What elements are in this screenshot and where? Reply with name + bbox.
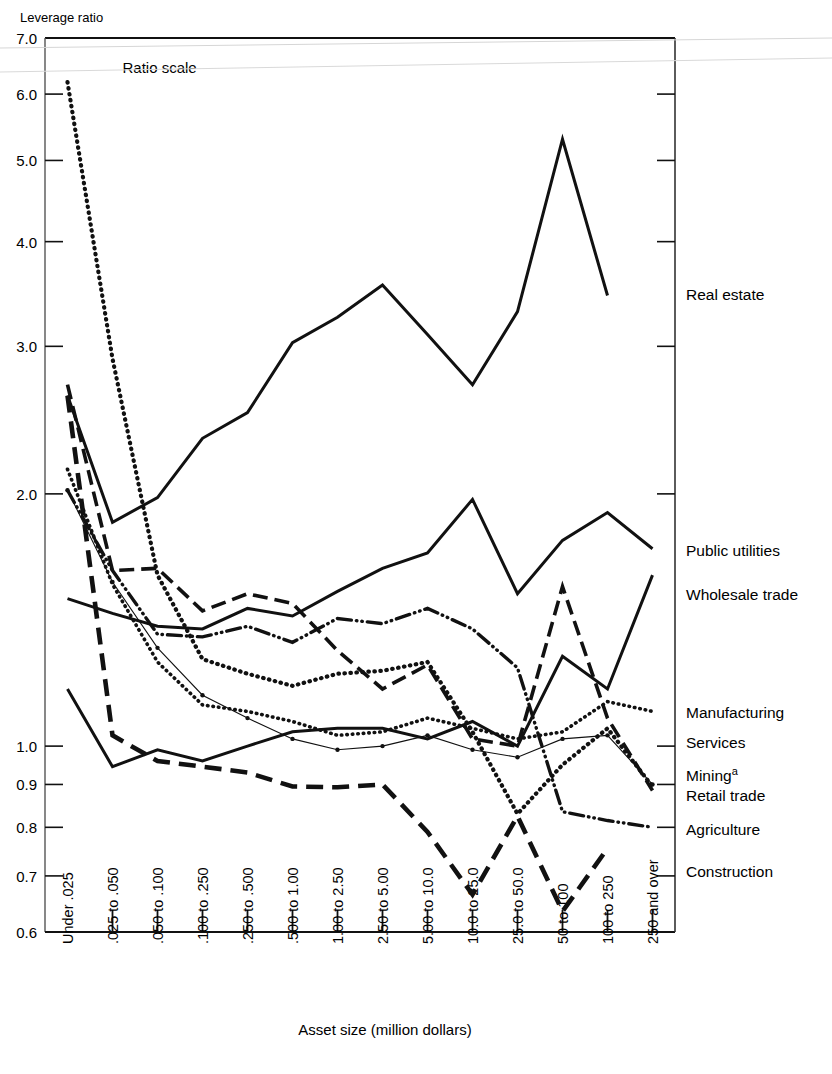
- series-label-agriculture: Agriculture: [686, 821, 760, 838]
- series-marker: [560, 737, 564, 741]
- series-line-manufacturing: [68, 469, 653, 739]
- series-marker: [380, 744, 384, 748]
- series-line-real-estate: [68, 139, 608, 522]
- x-tick-label: .100 to .250: [195, 867, 211, 944]
- series-marker: [155, 646, 159, 650]
- mining-footnote-marker: a: [732, 765, 739, 777]
- series-group: [65, 82, 654, 911]
- series-marker: [110, 580, 114, 584]
- series-line-services: [68, 490, 653, 784]
- y-tick-label: 7.0: [16, 30, 37, 47]
- x-tick-label: .500 to 1.00: [285, 867, 301, 944]
- series-marker: [335, 748, 339, 752]
- series-marker: [290, 737, 294, 741]
- series-label-retail-trade: Retail trade: [686, 787, 765, 804]
- series-label-public-utilities: Public utilities: [686, 542, 780, 559]
- x-axis-title: Asset size (million dollars): [298, 1021, 471, 1038]
- series-label-real-estate: Real estate: [686, 286, 764, 303]
- series-marker: [515, 755, 519, 759]
- x-tick-label: 5.00 to 10.0: [420, 867, 436, 944]
- x-tick-label: 1.00 to 2.50: [330, 867, 346, 944]
- ratio-scale-annotation: Ratio scale: [123, 59, 197, 76]
- y-tick-label: 4.0: [16, 234, 37, 251]
- series-label-manufacturing: Manufacturing: [686, 704, 784, 721]
- series-marker: [200, 693, 204, 697]
- x-tick-label: 50 to 100: [555, 884, 571, 944]
- x-tick-label: .050 to .100: [150, 867, 166, 944]
- y-tick-label: 5.0: [16, 152, 37, 169]
- x-tick-label: .025 to .050: [105, 867, 121, 944]
- scan-artifact-line: [0, 38, 832, 48]
- series-label-wholesale-trade: Wholesale trade: [686, 586, 798, 603]
- x-tick-label: 25.0 to 50.0: [510, 867, 526, 944]
- y-tick-label: 0.8: [16, 819, 37, 836]
- x-tick-label: 100 to 250: [600, 875, 616, 944]
- series-marker: [605, 733, 609, 737]
- y-tick-label: 0.9: [16, 776, 37, 793]
- series-line-mining: [68, 82, 653, 814]
- series-line-construction: [68, 396, 608, 912]
- y-tick-label: 0.7: [16, 868, 37, 885]
- y-axis-title: Leverage ratio: [20, 10, 103, 25]
- y-tick-label: 6.0: [16, 86, 37, 103]
- series-marker: [470, 748, 474, 752]
- y-tick-label: 0.6: [16, 924, 37, 941]
- series-label-construction: Construction: [686, 863, 773, 880]
- x-tick-label: 10.0 to 25.0: [465, 867, 481, 944]
- series-label-services: Services: [686, 734, 746, 751]
- x-tick-label: .250 to .500: [240, 867, 256, 944]
- series-label-mining: Mininga: [686, 765, 739, 784]
- leverage-ratio-line-chart: 7.06.05.04.03.02.01.00.90.80.70.6Under .…: [0, 0, 832, 1074]
- x-tick-label: 2.50 to 5.00: [375, 867, 391, 944]
- y-tick-label: 1.0: [16, 738, 37, 755]
- y-tick-label: 2.0: [16, 486, 37, 503]
- series-marker: [425, 733, 429, 737]
- x-tick-label: Under .025: [60, 872, 76, 944]
- x-tick-label: 250 and over: [645, 859, 661, 944]
- series-marker: [245, 716, 249, 720]
- y-tick-label: 3.0: [16, 338, 37, 355]
- figure-root: 7.06.05.04.03.02.01.00.90.80.70.6Under .…: [0, 0, 832, 1074]
